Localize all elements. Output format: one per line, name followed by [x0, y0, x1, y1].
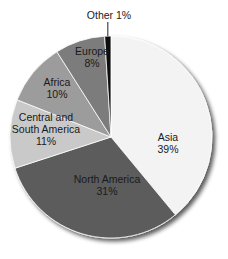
slice-label-africa: Africa10%: [44, 76, 71, 100]
slice-label-asia: Asia39%: [157, 131, 178, 155]
slice-label-other: Other 1%: [87, 9, 131, 21]
pie-chart: Asia39%North America31%Central andSouth …: [0, 0, 228, 259]
